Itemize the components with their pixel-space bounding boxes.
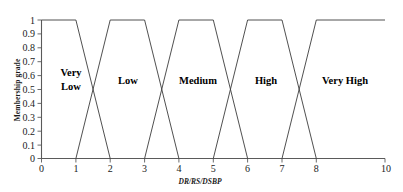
set-label-medium: Medium [179,75,217,86]
y-tick-label: 1 [30,15,35,26]
set-label-high: High [255,75,277,86]
y-tick-label: 0.5 [23,84,36,95]
set-label-very-low-line1: Very [60,67,82,78]
x-tick-label: 3 [142,163,147,174]
set-label-low: Low [118,75,138,86]
x-tick-label: 0 [39,163,44,174]
y-tick-label: 0.1 [23,140,36,151]
y-axis-tick-labels: 1 0.9 0.8 0.7 0.6 0.5 0.4 0.3 0.2 0.1 0 [23,15,36,165]
y-tick-label: 0.7 [23,56,36,67]
x-tick-label: 6 [245,163,250,174]
x-tick-label: 4 [176,163,181,174]
y-axis-title: Membership grade [13,58,22,121]
x-tick-label: 2 [108,163,113,174]
x-tick-label: 1 [73,163,78,174]
y-tick-label: 0.3 [23,112,36,123]
x-tick-label: 5 [211,163,216,174]
y-tick-label: 0.8 [23,42,36,53]
x-axis-title: DR/RS/DSBP [178,177,222,186]
x-tick-label: 10 [381,163,391,174]
y-tick-label: 0.4 [23,98,36,109]
x-tick-label: 8 [314,163,319,174]
y-tick-label: 0.9 [23,28,36,39]
y-tick-label: 0 [30,153,35,164]
chart-background [0,0,403,192]
set-label-very-high: Very High [322,75,368,86]
x-tick-label: 7 [280,163,285,174]
y-tick-label: 0.2 [23,126,36,137]
set-label-very-low-line2: Low [61,81,81,92]
membership-function-chart: 1 0.9 0.8 0.7 0.6 0.5 0.4 0.3 0.2 0.1 0 [0,0,403,192]
y-tick-label: 0.6 [23,70,36,81]
chart-canvas: 1 0.9 0.8 0.7 0.6 0.5 0.4 0.3 0.2 0.1 0 [0,0,403,192]
